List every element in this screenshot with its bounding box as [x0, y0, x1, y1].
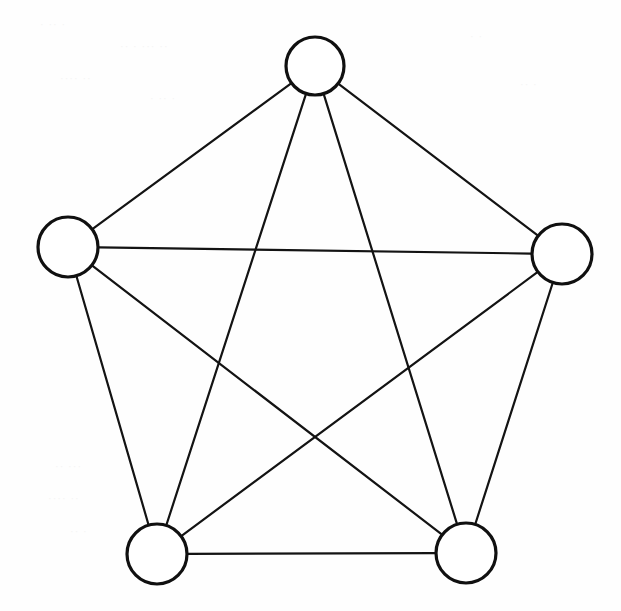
node-circle-n2[interactable]	[532, 224, 592, 284]
figure-canvas: · ·· ··· · ··· ······ ··· ·· ··· ·······…	[0, 0, 621, 611]
k5-graph-figure	[0, 0, 621, 611]
graph-node-n1[interactable]	[286, 37, 344, 95]
graph-node-n3[interactable]	[436, 523, 496, 583]
graph-edge-n2-n5[interactable]	[99, 247, 531, 253]
graph-node-n2[interactable]	[532, 224, 592, 284]
node-circle-n1[interactable]	[286, 37, 344, 95]
graph-node-n5[interactable]	[38, 217, 98, 277]
graph-edge-n2-n3[interactable]	[475, 284, 552, 524]
graph-edge-n3-n4[interactable]	[188, 553, 435, 554]
node-circle-n3[interactable]	[436, 523, 496, 583]
edge-layer	[77, 84, 553, 554]
graph-edge-n4-n5[interactable]	[77, 277, 149, 524]
node-circle-n5[interactable]	[38, 217, 98, 277]
node-layer	[38, 37, 592, 584]
graph-node-n4[interactable]	[127, 524, 187, 584]
node-circle-n4[interactable]	[127, 524, 187, 584]
graph-edge-n1-n2[interactable]	[339, 84, 537, 235]
graph-edge-n5-n1[interactable]	[93, 84, 291, 229]
